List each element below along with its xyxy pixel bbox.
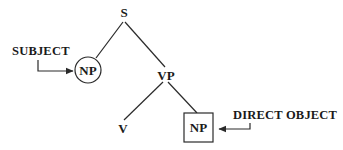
- edge-vp-to-v: [124, 82, 163, 120]
- node-s: S: [120, 5, 127, 20]
- node-np-object: NP: [184, 113, 213, 142]
- syntax-tree-diagram: S NP VP V NP SUBJECT DIRECT OBJECT: [0, 0, 343, 150]
- node-v: V: [118, 121, 128, 136]
- direct-object-annotation: DIRECT OBJECT: [219, 108, 338, 129]
- node-np-object-label: NP: [190, 120, 207, 135]
- edge-s-to-np-subject: [96, 22, 123, 58]
- subject-arrow-icon: [38, 60, 73, 71]
- node-np-subject-label: NP: [79, 63, 96, 78]
- tree-edges: [96, 22, 197, 120]
- subject-annotation: SUBJECT: [12, 44, 73, 71]
- node-vp: VP: [157, 68, 174, 83]
- direct-object-label: DIRECT OBJECT: [233, 108, 338, 122]
- node-np-subject: NP: [75, 57, 101, 83]
- edge-vp-to-np-object: [168, 82, 197, 113]
- direct-object-arrow-icon: [219, 123, 250, 129]
- subject-label: SUBJECT: [12, 44, 70, 58]
- edge-s-to-vp: [125, 22, 165, 67]
